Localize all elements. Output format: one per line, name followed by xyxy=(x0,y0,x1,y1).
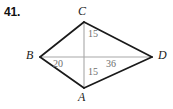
geometry-figure-panel: 41. C B D A 15 15 20 36 xyxy=(0,0,173,109)
measure-label-left: 20 xyxy=(53,58,63,69)
measure-label-bottom: 15 xyxy=(88,66,98,77)
vertex-label-b: B xyxy=(26,48,33,63)
edge-bc-line xyxy=(40,22,84,57)
vertex-label-c: C xyxy=(78,4,86,19)
measure-label-right: 36 xyxy=(106,58,116,69)
vertex-label-a: A xyxy=(78,90,85,105)
measure-label-top: 15 xyxy=(88,28,98,39)
vertex-label-d: D xyxy=(158,48,167,63)
